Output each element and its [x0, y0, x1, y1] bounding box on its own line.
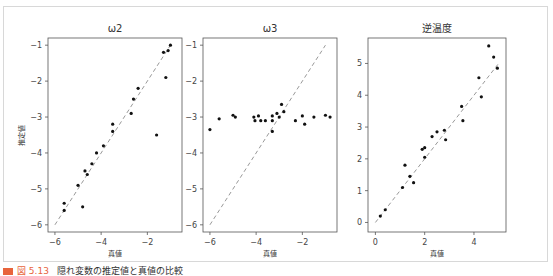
data-point [423, 156, 426, 159]
x-axis-label: 真値 [430, 249, 444, 258]
y-tick-label: 2 [357, 155, 362, 164]
x-tick-label: −2 [296, 238, 308, 247]
data-point [275, 112, 278, 115]
data-point [408, 175, 411, 178]
data-point [461, 119, 464, 122]
y-tick-label: −1 [185, 41, 197, 50]
x-tick-label: 0 [373, 238, 378, 247]
y-tick-label: −4 [185, 149, 197, 158]
plot-frame [368, 38, 506, 232]
reference-line [55, 45, 171, 225]
data-point [257, 114, 260, 117]
data-point [271, 130, 274, 133]
data-point [234, 115, 237, 118]
data-point [435, 130, 438, 133]
y-tick-label: −2 [185, 77, 197, 86]
data-point [271, 119, 274, 122]
data-point [324, 114, 327, 117]
data-point [303, 123, 306, 126]
data-point [312, 115, 315, 118]
data-point [252, 115, 255, 118]
data-point [169, 44, 172, 47]
data-point [155, 133, 158, 136]
data-point [95, 151, 98, 154]
data-point [76, 184, 79, 187]
data-point [278, 115, 281, 118]
data-point [423, 146, 426, 149]
x-tick-label: −6 [49, 238, 61, 247]
data-point [164, 76, 167, 79]
data-point [90, 162, 93, 165]
x-tick-label: −6 [204, 238, 216, 247]
data-point [81, 205, 84, 208]
data-point [401, 186, 404, 189]
data-point [412, 181, 415, 184]
data-point [218, 117, 221, 120]
plot-title: 逆温度 [422, 22, 452, 34]
caption-text: 隠れ変数の推定値と真値の比較 [57, 266, 183, 276]
data-point [301, 114, 304, 117]
data-point [328, 115, 331, 118]
x-axis-label: 真値 [108, 249, 122, 258]
data-point [477, 76, 480, 79]
data-point [403, 164, 406, 167]
data-point [132, 97, 135, 100]
x-tick-label: −4 [95, 238, 107, 247]
x-axis-label: 真値 [263, 249, 277, 258]
data-point [259, 119, 262, 122]
data-point [294, 119, 297, 122]
y-tick-label: −6 [185, 221, 197, 230]
data-point [460, 105, 463, 108]
data-point [137, 87, 140, 90]
y-tick-label: −3 [30, 113, 42, 122]
x-tick-label: 2 [422, 238, 427, 247]
data-point [280, 103, 283, 106]
y-tick-label: −5 [185, 185, 197, 194]
y-tick-label: −2 [30, 77, 42, 86]
data-point [86, 173, 89, 176]
y-tick-label: −6 [30, 221, 42, 230]
data-point [264, 119, 267, 122]
data-point [130, 112, 133, 115]
x-tick-label: −4 [250, 238, 262, 247]
data-point [282, 110, 285, 113]
data-point [443, 129, 446, 132]
data-point [384, 208, 387, 211]
data-point [167, 49, 170, 52]
data-point [480, 95, 483, 98]
data-point [83, 169, 86, 172]
data-point [487, 44, 490, 47]
reference-line [210, 45, 326, 225]
data-point [253, 119, 256, 122]
data-point [444, 138, 447, 141]
y-tick-label: −3 [185, 113, 197, 122]
data-point [63, 209, 66, 212]
data-point [379, 214, 382, 217]
y-tick-label: 5 [357, 59, 362, 68]
caption-number: 図 5.13 [17, 266, 49, 276]
data-point [492, 55, 495, 58]
plot-frame [48, 38, 182, 232]
plot-title: ω3 [263, 23, 278, 34]
data-point [102, 144, 105, 147]
y-tick-label: 4 [357, 91, 362, 100]
y-tick-label: 0 [357, 218, 362, 227]
data-point [208, 128, 211, 131]
y-tick-label: −1 [30, 41, 42, 50]
y-axis-label: 推定値 [17, 125, 26, 146]
data-point [430, 135, 433, 138]
y-tick-label: 1 [357, 187, 362, 196]
x-tick-label: −2 [141, 238, 153, 247]
plot-frame [203, 38, 337, 232]
x-tick-label: 4 [471, 238, 476, 247]
y-tick-label: −4 [30, 149, 42, 158]
data-point [496, 67, 499, 70]
reference-line [375, 63, 498, 222]
data-point [162, 51, 165, 54]
figure-caption: 図 5.13隠れ変数の推定値と真値の比較 [3, 266, 403, 276]
data-point [111, 123, 114, 126]
data-point [63, 202, 66, 205]
caption-marker-icon [3, 268, 13, 275]
data-point [271, 114, 274, 117]
y-tick-label: 3 [357, 123, 362, 132]
